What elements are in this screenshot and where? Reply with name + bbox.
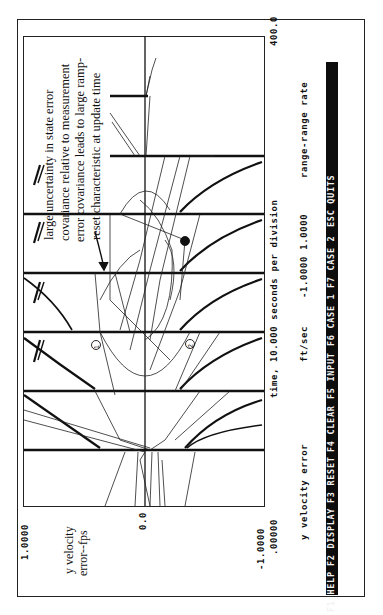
circle-2-label: 2 xyxy=(187,344,194,348)
status-variable: y velocity error xyxy=(299,444,309,540)
y-tick-bottom: -1.0000 xyxy=(256,528,266,570)
y-axis-label-line-2: error--fps xyxy=(76,530,91,576)
y-tick-zero: 0.0 xyxy=(138,512,148,530)
status-mode: range-range rate xyxy=(299,82,309,178)
fkey-f2[interactable]: F2 DISPLAY xyxy=(326,508,336,566)
annotation-line-1: large uncertainty in state error xyxy=(42,90,57,240)
status-range: -1.0000 1.0000 xyxy=(299,214,309,298)
x-tick-end: 400.0 xyxy=(269,16,279,46)
circle-1-label: 1 xyxy=(93,345,100,349)
fkey-f6[interactable]: F6 CASE 1 xyxy=(326,294,336,346)
y-axis-label-line-1: y velocity xyxy=(62,526,77,574)
status-units: ft/sec xyxy=(299,326,309,362)
fkey-f7[interactable]: F7 CASE 2 xyxy=(326,236,336,288)
annotation-line-4: reset characteristic at update time xyxy=(89,73,104,240)
x-axis-label: time, 10.000 seconds per division xyxy=(269,199,279,398)
fkey-f1[interactable]: F1 HELP xyxy=(326,571,336,612)
x-tick-start: .00000 xyxy=(269,519,279,555)
annotation-line-2: covariance relative to measurement xyxy=(58,64,73,241)
y-tick-top: 1.0000 xyxy=(20,524,30,560)
chart-screen: 1 2 large uncertainty in state error cov… xyxy=(0,0,383,615)
annotation-line-3: error covariance leads to large ramp- xyxy=(73,58,88,242)
circle-3-marker xyxy=(181,237,190,246)
fkey-f3[interactable]: F3 RESET xyxy=(326,456,336,503)
fkey-f5[interactable]: F5 INPUT xyxy=(326,352,336,399)
fkey-f4[interactable]: F4 CLEAR xyxy=(326,405,336,452)
fkey-esc[interactable]: ESC QUITS xyxy=(326,175,336,227)
